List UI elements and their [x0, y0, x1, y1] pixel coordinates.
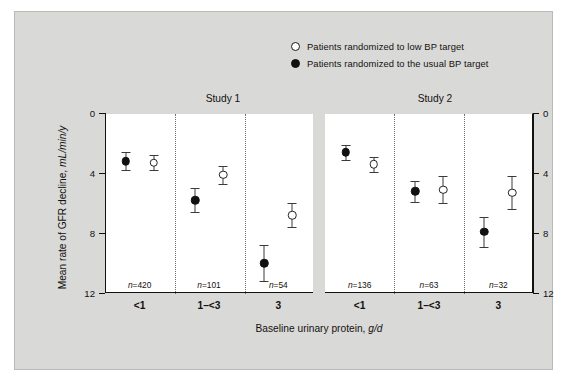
y-axis-tick — [99, 173, 105, 174]
y-axis-tick-label: 4 — [543, 168, 561, 179]
data-point-usual-bp — [121, 157, 130, 166]
error-bar-cap — [480, 247, 489, 248]
x-axis-category-label: 1–<3 — [198, 300, 221, 311]
error-bar-cap — [288, 227, 297, 228]
y-axis-tick — [533, 173, 539, 174]
error-bar-cap — [439, 176, 448, 177]
sample-size-label: n=63 — [420, 280, 439, 290]
x-axis-category-label: 3 — [495, 300, 501, 311]
y-axis-title: Mean rate of GFR decline, mL/min/y — [57, 108, 68, 308]
panel-baseline — [325, 292, 532, 293]
data-point-low-bp — [439, 185, 448, 194]
x-axis-category-label: <1 — [354, 300, 366, 311]
sample-size-label: n=32 — [489, 280, 508, 290]
error-bar-cap — [508, 209, 517, 210]
x-axis-category-label: <1 — [134, 300, 146, 311]
panel-divider — [464, 114, 465, 294]
y-axis-tick-label: 12 — [543, 288, 561, 299]
legend-item-usual-bp: Patients randomized to the usual BP targ… — [291, 56, 541, 71]
data-point-low-bp — [219, 170, 228, 179]
error-bar-cap — [508, 176, 517, 177]
panel-study-1 — [105, 113, 313, 293]
chart-legend: Patients randomized to low BP target Pat… — [291, 39, 541, 73]
x-axis-category-label: 1–<3 — [418, 300, 441, 311]
y-axis-tick — [533, 113, 539, 114]
y-axis-tick-label: 8 — [77, 228, 95, 239]
legend-item-low-bp: Patients randomized to low BP target — [291, 39, 541, 54]
error-bar-cap — [288, 203, 297, 204]
legend-label-usual-bp: Patients randomized to the usual BP targ… — [307, 58, 488, 69]
sample-size-label: n=54 — [269, 280, 288, 290]
x-axis-category-label: 3 — [275, 300, 281, 311]
sample-size-label: n=101 — [197, 280, 221, 290]
error-bar-cap — [480, 217, 489, 218]
error-bar-cap — [191, 212, 200, 213]
plot-area: n=420n=101n=54n=136n=63n=32 — [105, 113, 533, 293]
y-axis-title-text: Mean rate of GFR decline, — [57, 167, 68, 289]
panel-gap — [315, 113, 324, 293]
panel-title-study-1: Study 1 — [133, 93, 313, 104]
data-point-usual-bp — [480, 227, 489, 236]
data-point-usual-bp — [341, 148, 350, 157]
panel-title-study-2: Study 2 — [345, 93, 525, 104]
y-axis-tick-label: 0 — [543, 108, 561, 119]
panel-baseline — [106, 292, 313, 293]
y-axis-tick — [99, 233, 105, 234]
x-axis-title-text: Baseline urinary protein, — [256, 323, 369, 334]
error-bar-cap — [411, 181, 420, 182]
error-bar-cap — [369, 172, 378, 173]
error-bar-cap — [341, 145, 350, 146]
filled-circle-icon — [291, 59, 300, 68]
error-bar-cap — [260, 281, 269, 282]
y-axis-left — [105, 113, 106, 293]
y-axis-tick — [533, 293, 539, 294]
data-point-usual-bp — [191, 196, 200, 205]
open-circle-icon — [291, 42, 300, 51]
panel-divider — [175, 114, 176, 294]
error-bar-cap — [369, 157, 378, 158]
error-bar-cap — [260, 245, 269, 246]
error-bar-cap — [191, 188, 200, 189]
data-point-usual-bp — [260, 259, 269, 268]
error-bar-cap — [219, 166, 228, 167]
y-axis-tick-label: 0 — [77, 108, 95, 119]
figure-panel: Patients randomized to low BP target Pat… — [14, 11, 553, 370]
data-point-low-bp — [369, 160, 378, 169]
data-point-low-bp — [149, 158, 158, 167]
y-axis-tick-label: 12 — [77, 288, 95, 299]
y-axis-units: mL/min/y — [57, 126, 68, 167]
error-bar-cap — [149, 170, 158, 171]
y-axis-tick — [533, 233, 539, 234]
error-bar-cap — [411, 202, 420, 203]
y-axis-tick — [99, 293, 105, 294]
panel-divider — [245, 114, 246, 294]
x-axis-units: g/d — [368, 323, 382, 334]
error-bar-cap — [121, 152, 130, 153]
y-axis-tick-label: 4 — [77, 168, 95, 179]
panel-study-2 — [325, 113, 533, 293]
sample-size-label: n=136 — [348, 280, 372, 290]
data-point-low-bp — [508, 188, 517, 197]
sample-size-label: n=420 — [128, 280, 152, 290]
data-point-low-bp — [288, 211, 297, 220]
error-bar-cap — [121, 170, 130, 171]
error-bar-cap — [341, 160, 350, 161]
error-bar-cap — [439, 203, 448, 204]
x-axis-title: Baseline urinary protein, g/d — [105, 323, 533, 334]
y-axis-tick-label: 8 — [543, 228, 561, 239]
y-axis-right — [533, 113, 534, 293]
error-bar-cap — [219, 184, 228, 185]
legend-label-low-bp: Patients randomized to low BP target — [307, 41, 464, 52]
panel-divider — [394, 114, 395, 294]
y-axis-tick — [99, 113, 105, 114]
data-point-usual-bp — [411, 187, 420, 196]
error-bar-cap — [149, 155, 158, 156]
